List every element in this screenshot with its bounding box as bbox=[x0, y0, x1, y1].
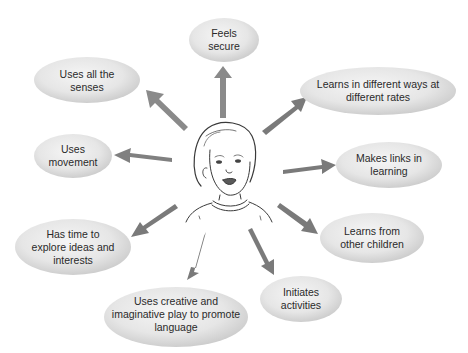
svg-text:Makes links in: Makes links in bbox=[356, 152, 422, 164]
svg-text:explore ideas and: explore ideas and bbox=[32, 241, 115, 253]
arrow-to-creative-play bbox=[187, 232, 206, 280]
arrow-to-makes-links bbox=[283, 159, 336, 174]
node-text-line: learning bbox=[370, 165, 408, 177]
node-text-line: activities bbox=[281, 299, 321, 311]
arrow-to-learns-from-children bbox=[277, 203, 318, 234]
svg-text:learning: learning bbox=[370, 165, 408, 177]
svg-text:senses: senses bbox=[70, 81, 103, 93]
node-text-line: other children bbox=[340, 238, 404, 250]
svg-text:Feels: Feels bbox=[211, 27, 237, 39]
bubbles: Feels secure Uses all the senses Learns … bbox=[15, 18, 456, 347]
svg-text:Learns from: Learns from bbox=[344, 225, 400, 237]
arrow-to-uses-all-senses bbox=[146, 90, 188, 131]
arrow-to-learns-different-ways bbox=[262, 97, 307, 135]
node-uses-all-senses: Uses all the senses bbox=[34, 57, 140, 103]
node-text-line: interests bbox=[53, 254, 93, 266]
node-text-line: movement bbox=[48, 156, 97, 168]
svg-text:interests: interests bbox=[53, 254, 93, 266]
node-text-line: Uses bbox=[61, 143, 85, 155]
node-has-time-to-explore: Has time to explore ideas and interests bbox=[15, 219, 131, 275]
arrows bbox=[114, 66, 336, 280]
node-text-line: Feels bbox=[211, 27, 237, 39]
svg-text:movement: movement bbox=[48, 156, 97, 168]
node-text-line: senses bbox=[70, 81, 103, 93]
node-text-line: explore ideas and bbox=[32, 241, 115, 253]
arrow-to-initiates-activities bbox=[248, 228, 274, 275]
arrow-to-has-time bbox=[131, 204, 178, 237]
node-text-line: Makes links in bbox=[356, 152, 422, 164]
child-shirt-collar bbox=[213, 200, 247, 206]
node-text-line: Learns from bbox=[344, 225, 400, 237]
svg-text:other children: other children bbox=[340, 238, 404, 250]
node-text-line: different rates bbox=[346, 91, 410, 103]
child-eye-right bbox=[235, 159, 241, 163]
node-learns-from-children: Learns from other children bbox=[320, 213, 424, 263]
node-feels-secure: Feels secure bbox=[189, 18, 259, 62]
node-text-line: language bbox=[154, 321, 197, 333]
node-text-line: Uses creative and bbox=[134, 295, 218, 307]
node-learns-different-ways: Learns in different ways at different ra… bbox=[300, 67, 456, 115]
node-makes-links: Makes links in learning bbox=[336, 142, 442, 188]
svg-text:different rates: different rates bbox=[346, 91, 410, 103]
svg-text:Initiates: Initiates bbox=[283, 286, 319, 298]
node-initiates-activities: Initiates activities bbox=[260, 276, 342, 322]
node-text-line: imaginative play to promote bbox=[112, 308, 241, 320]
svg-text:Uses: Uses bbox=[61, 143, 85, 155]
node-text-line: Learns in different ways at bbox=[317, 78, 439, 90]
node-creative-play: Uses creative and imaginative play to pr… bbox=[104, 287, 248, 347]
svg-text:Has time to: Has time to bbox=[46, 228, 99, 240]
diagram-canvas: Feels secure Uses all the senses Learns … bbox=[0, 0, 468, 353]
svg-text:Uses creative and: Uses creative and bbox=[134, 295, 218, 307]
arrow-to-feels-secure bbox=[214, 66, 232, 118]
child-mouth bbox=[223, 179, 236, 185]
svg-text:language: language bbox=[154, 321, 197, 333]
arrow-to-uses-movement bbox=[114, 148, 172, 163]
node-text-line: Initiates bbox=[283, 286, 319, 298]
node-uses-movement: Uses movement bbox=[34, 134, 112, 178]
svg-text:imaginative play to promote: imaginative play to promote bbox=[112, 308, 241, 320]
child-eye-left bbox=[216, 160, 222, 164]
node-text-line: Uses all the bbox=[60, 68, 115, 80]
svg-text:Learns in different ways at: Learns in different ways at bbox=[317, 78, 439, 90]
svg-text:Uses all the: Uses all the bbox=[60, 68, 115, 80]
svg-text:secure: secure bbox=[208, 40, 240, 52]
svg-text:activities: activities bbox=[281, 299, 321, 311]
child-shirt bbox=[186, 203, 212, 222]
node-text-line: secure bbox=[208, 40, 240, 52]
child-illustration bbox=[186, 122, 272, 222]
node-text-line: Has time to bbox=[46, 228, 99, 240]
